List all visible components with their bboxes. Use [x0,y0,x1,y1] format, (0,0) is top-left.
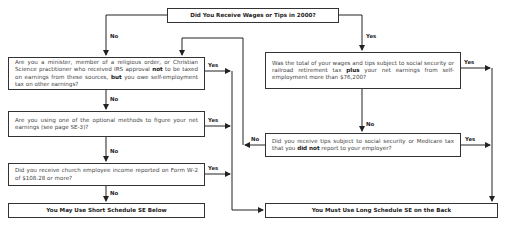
short-schedule-result-box: You May Use Short Schedule SE Below [8,203,205,218]
optional-no-label: No [110,148,118,154]
church-income-question-text: Did you receive church employee income r… [15,167,198,181]
church-no-label: No [110,190,118,196]
unreported-tips-question-box: Did you receive tips subject to social s… [265,133,461,157]
short-schedule-result-text: You May Use Short Schedule SE Below [46,207,166,214]
church-yes-label: Yes [208,165,218,171]
wages-no-label: No [366,121,374,127]
optional-methods-question-text: Are you using one of the optional method… [15,117,198,131]
start-question-text: Did You Receive Wages or Tips in 2000? [190,12,315,19]
start-no-label: No [110,33,118,39]
unreported-tips-question-text: Did you receive tips subject to social s… [272,138,454,152]
wages-total-question-text: Was the total of your wages and tips sub… [272,60,454,82]
wages-total-question-box: Was the total of your wages and tips sub… [265,52,461,89]
long-schedule-result-text: You Must Use Long Schedule SE on the Bac… [312,207,452,214]
minister-question-box: Are you a minister, member of a religiou… [8,57,205,90]
minister-question-text: Are you a minister, member of a religiou… [15,59,198,88]
start-yes-label: Yes [366,33,376,39]
minister-yes-label: Yes [208,62,218,68]
tips-yes-label: Yes [465,136,475,142]
wages-yes-label: Yes [464,59,474,65]
minister-no-label: No [110,96,118,102]
long-schedule-result-box: You Must Use Long Schedule SE on the Bac… [265,203,498,218]
optional-methods-question-box: Are you using one of the optional method… [8,111,205,137]
start-question-box: Did You Receive Wages or Tips in 2000? [167,8,339,23]
church-income-question-box: Did you receive church employee income r… [8,163,205,186]
optional-yes-label: Yes [208,117,218,123]
tips-no-label: No [251,136,259,142]
